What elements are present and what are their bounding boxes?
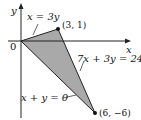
line-label-x-eq-3y: x = 3y xyxy=(27,11,60,22)
point-label-3-1: (3, 1) xyxy=(62,20,86,30)
y-axis-label: y xyxy=(10,5,17,16)
origin-label: 0 xyxy=(10,41,16,52)
x-axis-arrow-icon xyxy=(125,39,131,44)
y-axis-arrow-icon xyxy=(19,3,24,9)
point-6-neg6 xyxy=(93,111,97,115)
leader-x-eq-3y xyxy=(33,24,38,35)
line-label-x-plus-y-0: x + y = 0 xyxy=(21,92,69,103)
point-label-6-neg6: (6, −6) xyxy=(99,108,131,118)
region-diagram: y x 0 x = 3y (3, 1) 7x + 3y = 24 x + y =… xyxy=(0,0,141,120)
line-label-7x-3y-24: 7x + 3y = 24 xyxy=(77,53,141,64)
point-3-1 xyxy=(56,27,60,31)
